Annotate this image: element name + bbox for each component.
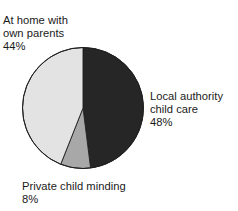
slice-label-local-authority-child-care: Local authority child care 48%	[150, 90, 223, 130]
slice-label-value: 8%	[22, 193, 126, 206]
slice-label-value: 44%	[3, 40, 68, 53]
pie-slice-local-authority-child-care	[83, 48, 143, 169]
slice-label-at-home-with-own-parents: At home with own parents 44%	[3, 14, 68, 54]
slice-label-line-2: own parents	[3, 27, 68, 40]
slice-label-line-1: At home with	[3, 14, 68, 27]
slice-label-private-child-minding: Private child minding 8%	[22, 180, 126, 206]
slice-label-value: 48%	[150, 116, 223, 129]
slice-label-line-1: Local authority	[150, 90, 223, 103]
slice-label-line-1: Private child minding	[22, 180, 126, 193]
pie-chart-figure: At home with own parents 44% Local autho…	[0, 0, 238, 211]
pie-slice-group	[23, 48, 144, 169]
slice-label-line-2: child care	[150, 103, 223, 116]
